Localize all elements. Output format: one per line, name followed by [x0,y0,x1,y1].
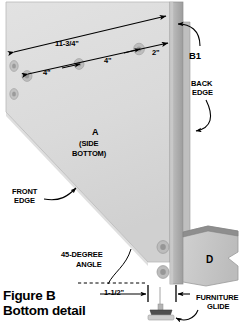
leader-back-edge [196,100,211,131]
screw-hole-icon [157,241,169,254]
label-part-a: A [92,128,98,138]
label-back-edge-line1: BACK [191,80,212,88]
label-back-edge-line2: EDGE [192,89,213,97]
screw-hole-icon [10,89,18,100]
label-front-edge-line1: FRONT [12,188,37,196]
panel-a-side-bottom [6,2,170,266]
screw-hole-icon [157,266,169,279]
screw-hole-icon [22,71,32,82]
dimension-label-spacing-3: 2" [152,49,160,57]
figure-caption-line1: Figure B [3,288,55,303]
label-furniture-glide-line2: GLIDE [207,303,229,311]
leader-front-edge [44,188,76,200]
leader-arrow-icon [196,100,211,131]
furniture-glide [148,304,174,320]
label-back-panel-b1: B1 [189,51,201,61]
label-part-d: D [206,255,213,266]
leader-angle [108,249,131,284]
leader-arrow-icon [176,310,198,320]
figure-caption-line2: Bottom detail [3,303,85,318]
dimension-label-offset: 1-1/2" [104,289,124,297]
dimension-label-overall-length: 11-3/4" [55,40,79,48]
dimension-label-spacing-1: 4" [43,69,51,77]
label-angle-line2: ANGLE [76,261,102,269]
label-front-edge-line2: EDGE [14,197,35,205]
dimension-label-spacing-2: 4" [104,57,112,65]
label-part-a-sub-line1: (SIDE [79,140,99,148]
label-furniture-glide-line1: FURNITURE [196,294,238,302]
leader-arrow-icon [44,188,76,200]
label-angle-line1: 45-DEGREE [61,251,103,259]
leader-furniture-glide [176,310,198,320]
screw-hole-icon [10,61,18,72]
figure-b-bottom-detail-diagram: 11-3/4" 4" 4" 2" B1 BACK EDGE A (SIDE BO… [0,0,252,324]
diagram-canvas [0,0,252,324]
label-part-a-sub-line2: BOTTOM) [72,150,106,158]
